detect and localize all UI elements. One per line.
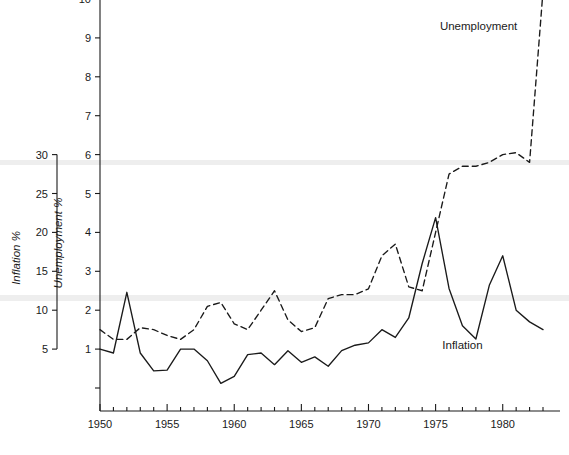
inflation-axis-title: Inflation % [10,231,22,285]
inflation-tick-label: 20 [36,226,48,238]
unemployment-tick-label: 9 [85,32,91,44]
x-axis-tick-label: 1970 [356,418,380,430]
unemployment-tick-label: 6 [85,149,91,161]
x-axis-tick-label: 1980 [490,418,514,430]
scan-artifact-band-lower [0,295,569,301]
unemployment-tick-label: 4 [85,226,91,238]
inflation-tick-label: 15 [36,265,48,277]
unemployment-tick-label: 3 [85,265,91,277]
x-axis-tick-label: 1950 [88,418,112,430]
unemployment-axis-title: Unemployment % [52,198,64,289]
unemployment-tick-label: 5 [85,188,91,200]
inflation-tick-label: 30 [36,149,48,161]
x-axis-tick-label: 1965 [289,418,313,430]
unemployment-tick-label: 2 [85,304,91,316]
x-axis-tick-label: 1960 [222,418,246,430]
inflation-tick-label: 10 [36,304,48,316]
series-annotation-unemployment: Unemployment [440,20,518,32]
unemployment-tick-label: 8 [85,71,91,83]
inflation-tick-label: 5 [42,343,48,355]
unemployment-tick-label: 7 [85,110,91,122]
inflation-tick-label: 25 [36,188,48,200]
chart-container: 12345678910Unemployment %51015202530Infl… [0,0,569,455]
unemployment-tick-label: 10 [79,0,91,5]
inflation-unemployment-line-chart: 12345678910Unemployment %51015202530Infl… [0,0,569,455]
series-annotation-inflation: Inflation [442,339,482,351]
unemployment-tick-label: 1 [85,343,91,355]
x-axis-tick-label: 1975 [423,418,447,430]
x-axis-tick-label: 1955 [155,418,179,430]
